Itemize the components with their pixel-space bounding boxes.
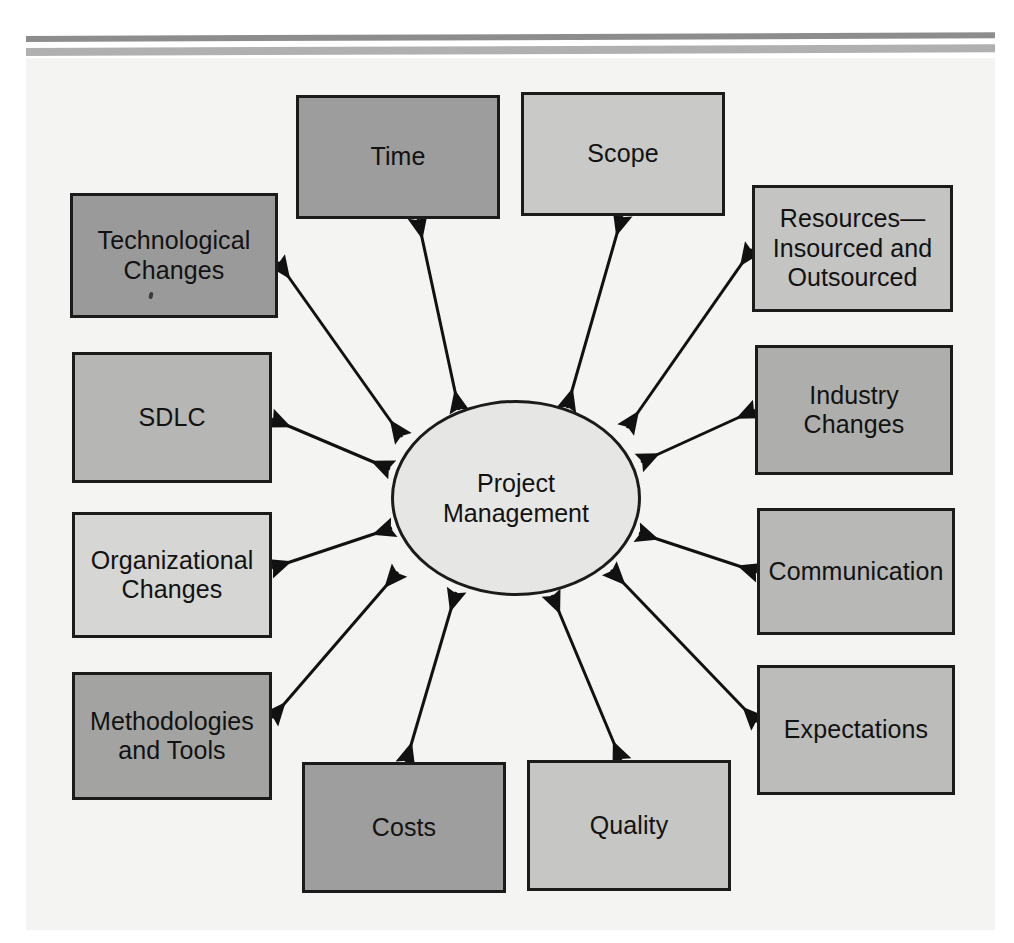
- node-box-costs[interactable]: Costs: [302, 762, 506, 893]
- node-box-label: Time: [370, 142, 425, 172]
- node-box-label: SDLC: [138, 403, 205, 433]
- connector-scope: [567, 216, 622, 408]
- node-box-label: Quality: [590, 811, 669, 841]
- node-box-label: Technological Changes: [98, 226, 251, 285]
- connector-quality: [552, 595, 621, 760]
- connector-time: [418, 219, 459, 410]
- node-box-label: Scope: [587, 139, 658, 169]
- node-box-label: Organizational Changes: [91, 546, 254, 605]
- node-box-sdlc[interactable]: SDLC: [72, 352, 272, 483]
- node-box-label: Communication: [769, 557, 944, 587]
- center-node-label: Project Management: [443, 468, 589, 528]
- node-box-expectations[interactable]: Expectations: [757, 665, 955, 795]
- node-box-label: Resources— Insourced and Outsourced: [773, 204, 933, 293]
- center-node-project-management[interactable]: Project Management: [391, 400, 641, 596]
- node-box-label: Costs: [372, 813, 436, 843]
- figure-root: Project ManagementTimeScopeTechnological…: [0, 0, 1014, 943]
- connector-communication: [639, 533, 757, 572]
- connector-methodologies-and-tools: [272, 572, 398, 718]
- node-box-communication[interactable]: Communication: [757, 508, 955, 635]
- scan-speck-artifact: [148, 292, 154, 300]
- connector-technological-changes: [278, 262, 402, 437]
- connector-sdlc: [272, 419, 390, 469]
- node-box-scope[interactable]: Scope: [521, 92, 725, 216]
- connector-expectations: [611, 570, 757, 722]
- connector-costs: [406, 592, 456, 762]
- node-box-label: Industry Changes: [804, 381, 905, 440]
- node-box-resources[interactable]: Resources— Insourced and Outsourced: [752, 185, 953, 312]
- connector-resources: [627, 249, 752, 428]
- connector-organizational-changes: [272, 528, 392, 568]
- node-box-technological-changes[interactable]: Technological Changes: [70, 193, 278, 318]
- node-box-methodologies-and-tools[interactable]: Methodologies and Tools: [72, 672, 272, 800]
- connector-industry-changes: [641, 410, 755, 462]
- node-box-organizational-changes[interactable]: Organizational Changes: [72, 512, 272, 638]
- node-box-label: Methodologies and Tools: [90, 707, 254, 766]
- node-box-label: Expectations: [784, 715, 928, 745]
- node-box-quality[interactable]: Quality: [527, 760, 731, 891]
- node-box-time[interactable]: Time: [296, 95, 500, 219]
- node-box-industry-changes[interactable]: Industry Changes: [755, 345, 953, 475]
